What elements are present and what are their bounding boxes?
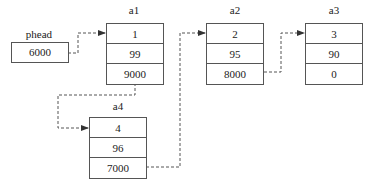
node-a4-next: 7000	[90, 158, 146, 178]
node-a3-data: 3	[306, 24, 362, 44]
node-a1-data: 1	[107, 24, 163, 44]
node-a4: 4 96 7000	[89, 117, 147, 179]
node-a4-label: a4	[88, 100, 148, 112]
node-a1: 1 99 9000	[106, 23, 164, 85]
node-a2-data: 2	[207, 24, 263, 44]
node-a1-label: a1	[104, 4, 164, 16]
node-a4-score: 96	[90, 138, 146, 158]
node-a2: 2 95 8000	[206, 23, 264, 85]
node-a2-next: 8000	[207, 64, 263, 84]
arrow-phead-to-a1	[68, 33, 105, 53]
node-a4-data: 4	[90, 118, 146, 138]
node-a3-next: 0	[306, 64, 362, 84]
head-pointer-box: 6000	[11, 42, 69, 63]
head-value: 6000	[12, 43, 68, 62]
node-a2-label: a2	[205, 4, 265, 16]
head-label: phead	[9, 28, 69, 40]
node-a3-label: a3	[304, 4, 364, 16]
node-a1-score: 99	[107, 44, 163, 64]
node-a1-next: 9000	[107, 64, 163, 84]
arrow-a2-to-a3	[264, 33, 304, 72]
node-a2-score: 95	[207, 44, 263, 64]
node-a3: 3 90 0	[305, 23, 363, 85]
node-a3-score: 90	[306, 44, 362, 64]
